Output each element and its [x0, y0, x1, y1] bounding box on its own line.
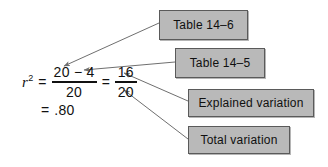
- fraction-first-numerator: 20 − 4: [52, 65, 97, 79]
- callout-label-explained-variation: Explained variation: [198, 97, 303, 109]
- callout-box-table-14-6: Table 14–6: [159, 10, 248, 40]
- callout-label-table-14-6: Table 14–6: [173, 19, 234, 31]
- r-squared-symbol: r2: [22, 73, 33, 91]
- equals-sign-2: =: [102, 74, 110, 90]
- equals-sign-3: =: [41, 102, 49, 118]
- figure-canvas: r2 = 20 − 4 20 = 16 20 = .80 Table 14–6 …: [0, 0, 328, 167]
- fraction-second-bar: [115, 81, 137, 83]
- equals-sign-1: =: [38, 74, 46, 90]
- fraction-second-denominator: 20: [116, 85, 136, 99]
- callout-box-explained-variation: Explained variation: [188, 89, 314, 117]
- equation-line-primary: r2 = 20 − 4 20 = 16 20: [22, 60, 137, 104]
- callout-box-total-variation: Total variation: [188, 126, 290, 154]
- equation-block: r2 = 20 − 4 20 = 16 20 = .80: [22, 60, 137, 118]
- fraction-first-bar: [52, 81, 97, 83]
- equation-result-value: .80: [54, 102, 74, 118]
- callout-box-table-14-5: Table 14–5: [175, 48, 265, 78]
- fraction-first: 20 − 4 20: [52, 65, 97, 99]
- equation-line-result: = .80: [22, 102, 137, 118]
- callout-label-total-variation: Total variation: [200, 134, 277, 146]
- fraction-second-numerator: 16: [116, 65, 136, 79]
- fraction-second: 16 20: [115, 65, 137, 99]
- r-symbol-letter: r: [22, 74, 28, 90]
- fraction-first-denominator: 20: [64, 85, 84, 99]
- callout-label-table-14-5: Table 14–5: [190, 57, 251, 69]
- r-symbol-exponent: 2: [28, 73, 33, 83]
